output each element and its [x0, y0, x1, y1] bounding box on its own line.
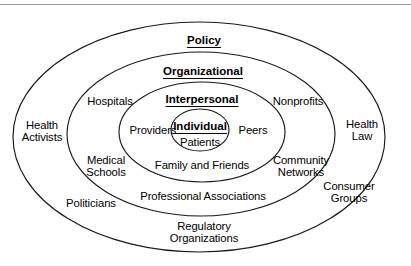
actor-label-community-networks: Community Networks	[273, 154, 329, 178]
actor-label-patients: Patients	[180, 136, 220, 148]
level-label-policy: Policy	[187, 30, 221, 48]
level-label-organizational: Organizational	[163, 61, 243, 79]
actor-label-politicians: Politicians	[66, 197, 116, 209]
actor-label-peers: Peers	[238, 124, 267, 136]
actor-label-professional-associations: Professional Associations	[140, 190, 266, 202]
actor-label-providers: Providers	[130, 124, 177, 136]
level-label-policy-text: Policy	[187, 34, 221, 48]
level-label-individual: Individual	[173, 116, 227, 134]
level-label-organizational-text: Organizational	[163, 65, 243, 79]
actor-label-medical-schools: Medical Schools	[86, 154, 126, 178]
actor-label-consumer-groups: Consumer Groups	[323, 180, 374, 204]
level-label-interpersonal: Interpersonal	[166, 89, 239, 107]
socio-ecological-diagram: Policy Organizational Interpersonal Indi…	[0, 0, 411, 266]
actor-label-hospitals: Hospitals	[87, 95, 133, 107]
actor-label-nonprofits: Nonprofits	[273, 95, 324, 107]
actor-label-health-activists: Health Activists	[22, 119, 63, 143]
actor-label-health-law: Health Law	[346, 118, 378, 142]
actor-label-family-and-friends: Family and Friends	[155, 159, 249, 171]
actor-label-regulatory-organizations: Regulatory Organizations	[170, 220, 238, 244]
level-label-individual-text: Individual	[173, 120, 227, 134]
level-label-interpersonal-text: Interpersonal	[166, 93, 239, 107]
